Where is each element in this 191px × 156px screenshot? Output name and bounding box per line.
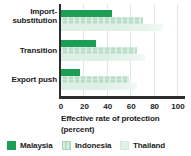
legend-item-malaysia: Malaysia (7, 141, 53, 150)
category-label-transition: Transition (0, 47, 57, 56)
x-tick-label-40: 40 (103, 102, 112, 111)
category-label-export-push: Export push (0, 76, 57, 85)
legend-label-malaysia: Malaysia (20, 141, 53, 150)
x-tick-label-80: 80 (150, 102, 159, 111)
bar-malaysia-transition (61, 40, 96, 47)
gridline-100 (177, 4, 178, 96)
category-label-line2: substitution (0, 17, 57, 26)
legend-swatch-indonesia (62, 141, 71, 150)
legend-swatch-thailand (120, 141, 129, 150)
bar-thailand-export-push (61, 83, 137, 90)
gridline-80 (154, 4, 155, 96)
bar-indonesia-import-substitution (61, 17, 143, 24)
category-label-import-substitution: Import- substitution (0, 8, 57, 25)
x-tick-label-20: 20 (80, 102, 89, 111)
legend-item-indonesia: Indonesia (62, 141, 111, 150)
bar-malaysia-import-substitution (61, 10, 112, 17)
x-tick-label-60: 60 (127, 102, 136, 111)
bar-thailand-import-substitution (61, 24, 163, 31)
bar-malaysia-export-push (61, 69, 80, 76)
x-tick-label-100: 100 (171, 102, 184, 111)
protection-rate-chart: Import- substitution Transition Export p… (0, 0, 191, 156)
bar-indonesia-export-push (61, 76, 129, 83)
legend-label-indonesia: Indonesia (75, 141, 111, 150)
x-axis-title-line1: Effective rate of protection (61, 114, 160, 123)
plot-area (61, 4, 185, 99)
x-axis-title-line2: (percent) (61, 125, 94, 134)
legend-item-thailand: Thailand (120, 141, 165, 150)
legend-label-thailand: Thailand (133, 141, 165, 150)
bar-thailand-transition (61, 54, 145, 61)
x-tick-label-0: 0 (59, 102, 63, 111)
x-axis-line (59, 96, 185, 99)
bar-indonesia-transition (61, 47, 137, 54)
legend-swatch-malaysia (7, 141, 16, 150)
